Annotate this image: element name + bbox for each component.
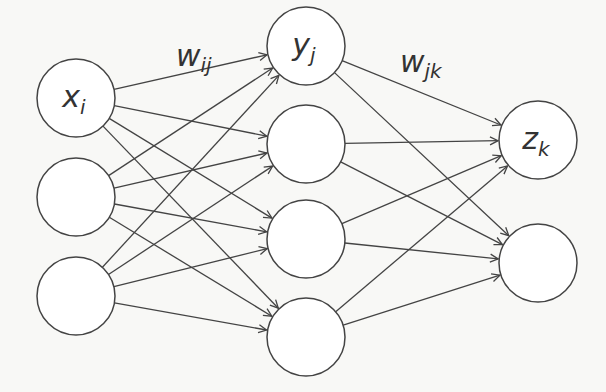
- edge-x1-y2: [114, 106, 267, 137]
- edge-y3-z1: [342, 156, 501, 224]
- node-circle: [499, 224, 577, 302]
- hidden-node-2: [267, 105, 345, 183]
- edge-y1-z2: [335, 73, 509, 236]
- node-circle: [267, 200, 345, 278]
- node-circle: [37, 158, 115, 236]
- node-circle: [37, 257, 115, 335]
- node-circle: [267, 298, 345, 376]
- output-node-2: [499, 224, 577, 302]
- edge-x3-y4: [114, 303, 266, 330]
- node-circle: [267, 105, 345, 183]
- edge-y4-z2: [343, 275, 500, 325]
- edge-x1-y3: [109, 118, 272, 218]
- weight-label-w_ij: wij: [176, 38, 212, 77]
- weight-label-w_jk: wjk: [400, 44, 443, 83]
- neurons: xiyjzk: [37, 7, 577, 376]
- network-svg: xiyjzk wijwjk: [0, 0, 606, 392]
- hidden-node-4: [267, 298, 345, 376]
- edge-x3-y3: [114, 249, 267, 287]
- hidden-node-1: yj: [267, 7, 345, 85]
- edge-x2-y4: [109, 217, 271, 316]
- input-node-1: xi: [37, 59, 115, 137]
- output-node-1: zk: [499, 101, 577, 179]
- edge-x1-y4: [103, 126, 278, 308]
- edge-y2-z1: [345, 141, 498, 144]
- edge-y4-z1: [336, 166, 508, 312]
- hidden-node-3: [267, 200, 345, 278]
- edge-x2-y1: [109, 68, 273, 176]
- edge-x2-y3: [114, 204, 266, 232]
- connections: [102, 55, 508, 330]
- input-node-2: [37, 158, 115, 236]
- neural-network-diagram: xiyjzk wijwjk: [0, 0, 606, 392]
- edge-x3-y2: [109, 166, 273, 274]
- input-node-3: [37, 257, 115, 335]
- edge-x3-y1: [102, 75, 279, 267]
- edge-y3-z2: [345, 243, 498, 259]
- edge-y2-z2: [341, 162, 503, 245]
